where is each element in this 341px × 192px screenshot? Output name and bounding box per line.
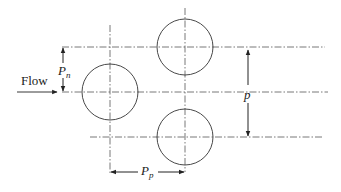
tube-bank-diagram <box>0 0 341 192</box>
p-label: p <box>244 88 251 101</box>
vertical-centerlines <box>110 8 185 175</box>
horizontal-centerlines <box>62 47 328 137</box>
flow-label: Flow <box>21 74 48 87</box>
pp-label: Pp <box>141 164 153 177</box>
pn-label: Pn <box>58 64 70 77</box>
